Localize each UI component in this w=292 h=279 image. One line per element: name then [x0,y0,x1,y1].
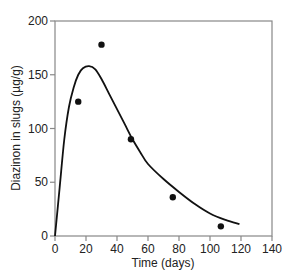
fitted-curve [55,66,239,236]
x-tick-label: 140 [262,242,282,256]
chart: 050100150200 020406080100120140 Time (da… [0,0,292,279]
data-point [128,136,134,142]
y-tick-label: 150 [28,68,48,82]
x-axis-label: Time (days) [132,256,195,270]
x-tick-label: 0 [52,242,59,256]
data-point [75,98,81,104]
y-axis: 050100150200 [28,14,55,243]
data-point [218,223,224,229]
x-tick-label: 40 [110,242,124,256]
data-point [98,41,104,47]
plot-frame [55,21,272,236]
y-tick-label: 100 [28,122,48,136]
x-tick-label: 100 [200,242,220,256]
y-tick-label: 50 [35,175,49,189]
x-tick-label: 120 [231,242,251,256]
x-tick-label: 20 [79,242,93,256]
y-axis-label: Diazinon in slugs (µg/g) [9,65,23,191]
x-axis: 020406080100120140 [52,236,283,256]
x-tick-label: 80 [172,242,186,256]
y-tick-label: 200 [28,14,48,28]
data-points [75,41,224,229]
data-point [170,194,176,200]
y-tick-label: 0 [41,229,48,243]
x-tick-label: 60 [141,242,155,256]
